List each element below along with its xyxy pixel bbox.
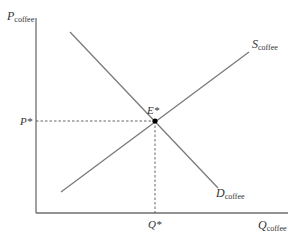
demand-curve [70, 32, 218, 188]
quantity-label: Q* [148, 218, 162, 230]
equilibrium-label: E* [146, 104, 160, 116]
equilibrium-point [152, 118, 157, 123]
supply-demand-diagram: Pcoffee Qcoffee Scoffee Dcoffee E* P* Q* [0, 0, 298, 237]
supply-label: Scoffee [252, 37, 278, 52]
price-label: P* [19, 115, 33, 127]
demand-label: Dcoffee [215, 186, 245, 201]
x-axis-label: Qcoffee [258, 218, 287, 233]
diagram-svg: Pcoffee Qcoffee Scoffee Dcoffee E* P* Q* [0, 0, 298, 237]
y-axis-label: Pcoffee [6, 9, 35, 24]
